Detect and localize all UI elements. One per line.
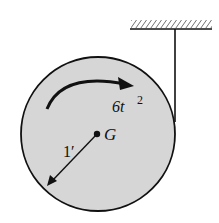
ceiling-support <box>130 20 212 29</box>
angular-acceleration-exponent: 2 <box>137 93 143 107</box>
ceiling-hatching <box>131 20 212 28</box>
disk-diagram: 6t 2 G 1′ <box>0 0 219 223</box>
angular-acceleration-label: 6t <box>112 98 125 115</box>
radius-label: 1′ <box>63 143 75 160</box>
center-label: G <box>104 125 116 144</box>
